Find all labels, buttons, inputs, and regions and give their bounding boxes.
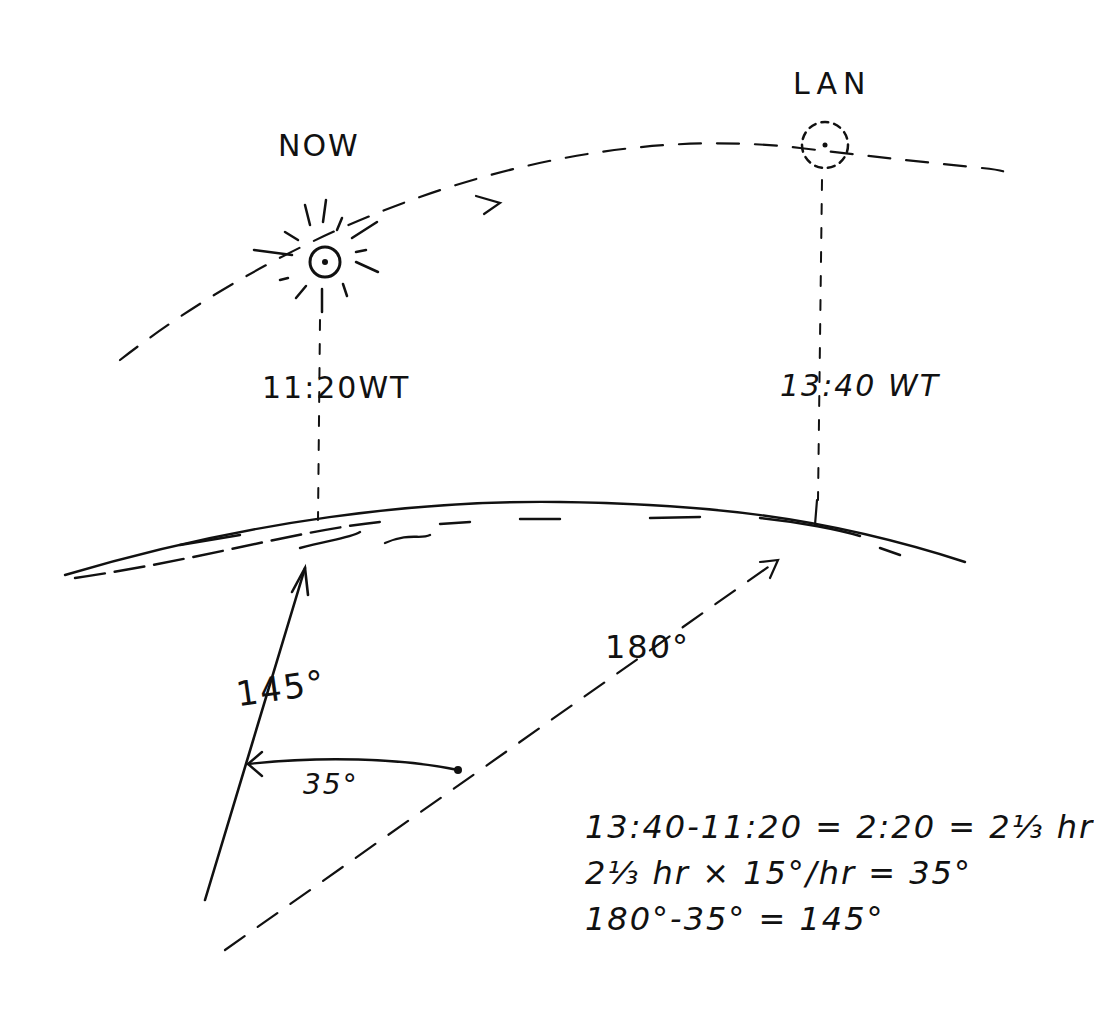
calculations-block: 13:40-11:20 = 2:20 = 2⅓ hr 2⅓ hr × 15°/h… bbox=[585, 808, 1094, 938]
lan-time-label: 13:40 WT bbox=[780, 368, 940, 403]
now-bearing-line bbox=[205, 568, 305, 900]
lan-label: LAN bbox=[793, 66, 871, 101]
sun-now-icon bbox=[254, 200, 378, 312]
sun-path-arrow-icon bbox=[476, 196, 500, 214]
calc-line-3: 180°-35° = 145° bbox=[585, 900, 1094, 938]
lan-drop-line bbox=[818, 180, 822, 500]
earth-horizon bbox=[65, 502, 965, 578]
sun-lan-icon bbox=[802, 122, 848, 168]
calc-line-1: 13:40-11:20 = 2:20 = 2⅓ hr bbox=[585, 808, 1094, 846]
lan-bearing-label: 180° bbox=[605, 628, 690, 666]
angle-label: 35° bbox=[303, 768, 359, 801]
now-label: NOW bbox=[278, 128, 360, 163]
now-drop-line bbox=[318, 320, 320, 520]
calc-line-2: 2⅓ hr × 15°/hr = 35° bbox=[585, 854, 1094, 892]
angle-arc-origin-dot bbox=[454, 766, 462, 774]
sun-path-arc bbox=[120, 143, 1015, 360]
now-time-label: 11:20WT bbox=[262, 370, 410, 405]
lan-horizon-tick bbox=[815, 500, 817, 525]
lan-bearing-arrow-icon bbox=[760, 560, 778, 578]
